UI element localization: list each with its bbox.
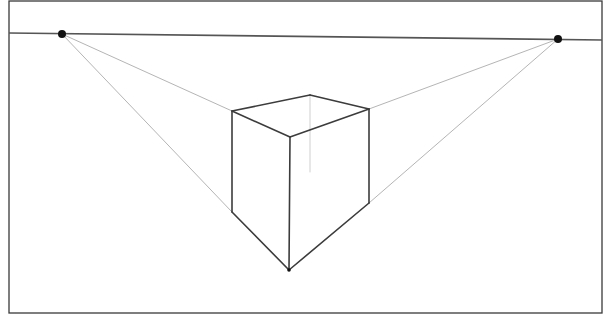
guide-line (62, 34, 232, 212)
cube-edge (310, 95, 369, 109)
cube-edge (232, 111, 290, 137)
cube-edge (289, 203, 369, 270)
vp-right-dot (554, 35, 562, 43)
cube-edge (290, 109, 369, 137)
cube-edge (289, 137, 290, 270)
cube-edge (232, 95, 310, 111)
diagram-canvas (0, 0, 609, 317)
perspective-diagram (0, 0, 609, 317)
frame-border (9, 1, 602, 313)
guide-line (369, 39, 558, 203)
guide-line (369, 39, 558, 109)
guide-line (62, 34, 232, 111)
horizon-line (9, 33, 602, 40)
construction-guides (62, 34, 558, 212)
cube-edge (232, 212, 289, 270)
front-corner-dot (287, 268, 291, 272)
cube (232, 95, 369, 270)
vp-left-dot (58, 30, 66, 38)
